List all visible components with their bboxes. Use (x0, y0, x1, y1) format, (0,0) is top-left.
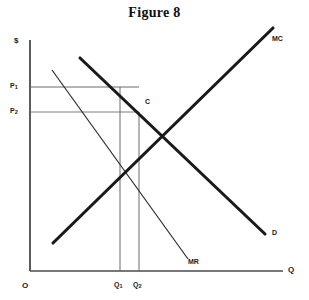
quantity-tick-q1: Q1 (114, 281, 123, 289)
marginal-cost-label: MC (272, 35, 283, 42)
figure-container: Figure 8 $ Q O P1 P2 Q1 Q2 MC D MR C (0, 0, 309, 300)
x-axis-label: Q (288, 266, 294, 274)
point-c-label: C (145, 98, 150, 105)
price-tick-p1-subscript: 1 (15, 84, 18, 90)
quantity-tick-q2: Q2 (133, 281, 142, 289)
price-tick-p1-text: P (10, 82, 15, 89)
origin-label: O (22, 282, 28, 290)
quantity-tick-q1-subscript: 1 (119, 283, 122, 289)
economics-diagram (0, 0, 309, 300)
marginal-revenue-label: MR (188, 258, 199, 265)
price-tick-p2-text: P (10, 107, 15, 114)
quantity-tick-q2-subscript: 2 (138, 283, 141, 289)
price-tick-p1: P1 (10, 82, 18, 90)
demand-curve (80, 58, 265, 234)
price-tick-p2-subscript: 2 (15, 109, 18, 115)
y-axis-label: $ (14, 37, 18, 45)
price-tick-p2: P2 (10, 107, 18, 115)
demand-label: D (272, 229, 277, 236)
